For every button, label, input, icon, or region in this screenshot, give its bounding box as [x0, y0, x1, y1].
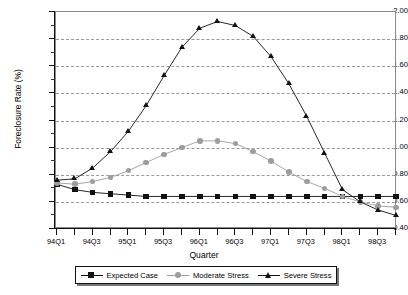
x-axis-tick-label: 98Q1	[321, 237, 361, 246]
data-point	[107, 148, 113, 153]
x-axis-tick	[127, 229, 128, 235]
x-axis-tick	[145, 229, 146, 235]
circle-marker-icon	[175, 272, 181, 278]
legend-swatch	[258, 270, 280, 280]
data-point	[286, 80, 292, 85]
data-point	[197, 194, 203, 200]
data-point	[179, 194, 185, 200]
x-axis-tick	[270, 229, 271, 235]
foreclosure-rate-chart: Foreclosure Rate (%) 0.400.600.801.001.2…	[0, 0, 408, 295]
legend-item-moderate-stress: Moderate Stress	[167, 270, 249, 280]
triangle-marker-icon	[265, 272, 271, 278]
data-point	[71, 175, 77, 180]
x-axis-tick-label: 97Q3	[286, 237, 326, 246]
x-axis-tick	[234, 229, 235, 235]
data-point	[125, 128, 131, 133]
data-point	[375, 194, 381, 200]
data-point	[268, 53, 274, 58]
x-axis-tick	[377, 229, 378, 235]
x-axis-tick	[252, 229, 253, 235]
x-axis-tick-label: 98Q3	[357, 237, 397, 246]
data-point	[393, 212, 399, 217]
x-axis-tick-label: 95Q1	[107, 237, 147, 246]
x-axis-tick	[74, 229, 75, 235]
data-point	[161, 194, 167, 200]
data-point	[197, 138, 203, 144]
legend-item-severe-stress: Severe Stress	[258, 270, 332, 280]
x-axis-tick-label: 97Q1	[250, 237, 290, 246]
legend-label: Moderate Stress	[191, 271, 249, 280]
x-axis-tick	[359, 229, 360, 235]
data-point	[268, 194, 274, 200]
x-axis-tick-label: 96Q1	[179, 237, 219, 246]
data-point	[286, 194, 292, 200]
data-point	[126, 192, 132, 198]
data-point	[250, 33, 256, 38]
x-axis-tick	[163, 229, 164, 235]
data-point	[214, 18, 220, 23]
y-axis-title: Foreclosure Rate (%)	[13, 39, 23, 179]
data-point	[286, 169, 292, 175]
series-line	[57, 21, 396, 215]
data-point	[143, 194, 149, 200]
data-point	[196, 25, 202, 30]
data-point	[143, 102, 149, 107]
legend-label: Expected Case	[105, 271, 159, 280]
x-axis-tick	[395, 229, 396, 235]
data-point	[161, 152, 167, 158]
legend-item-expected-case: Expected Case	[81, 270, 159, 280]
data-point	[304, 194, 310, 200]
data-point	[232, 22, 238, 27]
data-point	[322, 194, 328, 200]
x-axis-line	[54, 228, 396, 229]
data-point	[108, 191, 114, 197]
data-point	[393, 194, 399, 200]
data-point	[357, 198, 363, 203]
x-axis-tick	[199, 229, 200, 235]
plot-area	[55, 11, 396, 228]
x-axis-tick-label: 94Q1	[36, 237, 76, 246]
data-point	[215, 194, 221, 200]
x-axis-tick	[110, 229, 111, 235]
x-axis-tick	[288, 229, 289, 235]
x-axis-tick-label: 95Q3	[143, 237, 183, 246]
data-point	[179, 145, 185, 151]
data-point	[339, 186, 345, 191]
data-point	[393, 205, 399, 211]
data-point	[72, 187, 78, 193]
data-point	[250, 194, 256, 200]
data-point	[303, 113, 309, 118]
x-axis-tick	[181, 229, 182, 235]
x-axis-tick	[341, 229, 342, 235]
data-point	[161, 72, 167, 77]
x-axis-tick	[92, 229, 93, 235]
square-marker-icon	[88, 272, 94, 278]
x-axis-tick-label: 94Q3	[72, 237, 112, 246]
data-point	[215, 138, 221, 144]
legend-label: Severe Stress	[282, 271, 332, 280]
data-point	[268, 158, 274, 164]
data-point	[72, 181, 78, 187]
legend-swatch	[167, 270, 189, 280]
data-point	[54, 177, 60, 182]
data-point	[304, 179, 310, 185]
data-point	[321, 150, 327, 155]
series-layer	[56, 12, 395, 227]
x-axis-tick	[306, 229, 307, 235]
chart-legend: Expected CaseModerate StressSevere Stres…	[75, 266, 337, 284]
x-axis-tick	[56, 229, 57, 235]
x-axis-tick	[217, 229, 218, 235]
data-point	[90, 190, 96, 196]
data-point	[233, 194, 239, 200]
data-point	[375, 207, 381, 212]
x-axis-tick-label: 96Q3	[214, 237, 254, 246]
data-point	[89, 165, 95, 170]
legend-swatch	[81, 270, 103, 280]
data-point	[179, 44, 185, 49]
x-axis-title: Quarter	[0, 250, 408, 260]
x-axis-tick	[324, 229, 325, 235]
